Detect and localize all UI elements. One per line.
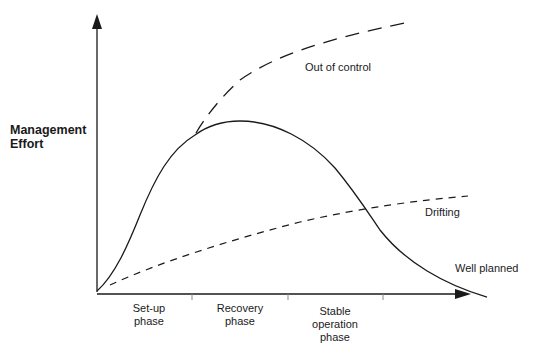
phase-recovery: Recovery phase bbox=[205, 302, 275, 328]
diagram-canvas bbox=[0, 0, 533, 349]
phase-setup: Set-up phase bbox=[114, 302, 184, 328]
curve-out-of-control bbox=[196, 22, 410, 133]
y-axis-label-line1: Management bbox=[10, 123, 86, 137]
y-axis-label-line2: Effort bbox=[10, 137, 86, 151]
curve-drifting bbox=[110, 196, 468, 285]
label-drifting: Drifting bbox=[425, 206, 460, 219]
label-well-planned: Well planned bbox=[455, 262, 518, 275]
y-axis-arrow-icon bbox=[92, 14, 102, 29]
label-out-of-control: Out of control bbox=[305, 61, 371, 74]
phase-stable-operation: Stable operation phase bbox=[300, 305, 370, 344]
y-axis-label: Management Effort bbox=[10, 123, 86, 151]
